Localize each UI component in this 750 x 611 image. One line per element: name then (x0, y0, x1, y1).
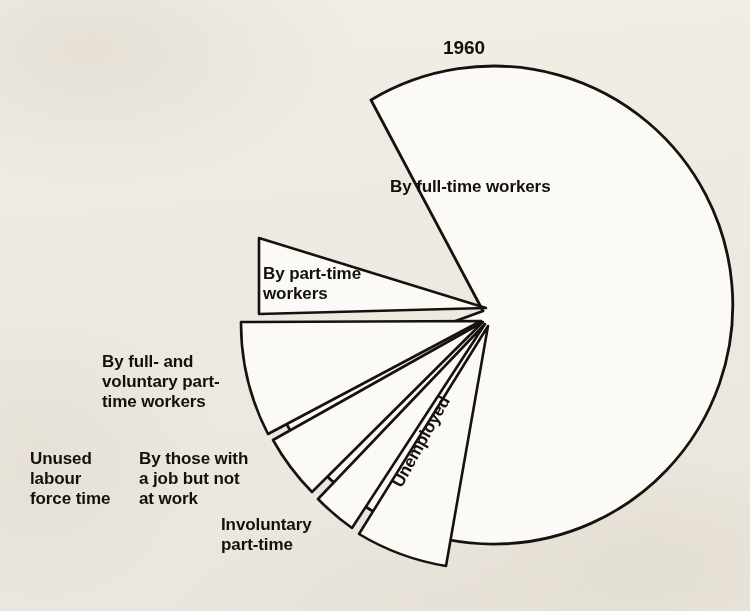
slice-label-job-but-not-at-work: By those with a job but not at work (139, 449, 248, 509)
group-label-unused-labour-force-time: Unused labour force time (30, 449, 110, 509)
slice-label-job-line2: a job but not (139, 469, 240, 488)
slice-label-job-line1: By those with (139, 449, 248, 468)
figure-page: 1960 By full-time workers By part-time w… (0, 0, 750, 611)
slice-label-full-time-workers: By full-time workers (390, 177, 551, 197)
slice-label-involuntary-line1: Involuntary (221, 515, 312, 534)
chart-title: 1960 (443, 38, 485, 58)
pie-chart-graphic (0, 0, 750, 611)
slice-label-part-time-line1: By part-time (263, 264, 361, 283)
slice-label-voluntary-line3: time workers (102, 392, 206, 411)
slice-label-job-line3: at work (139, 489, 198, 508)
slice-label-full-and-voluntary-part-time-workers: By full- and voluntary part- time worker… (102, 352, 220, 412)
slice-label-involuntary-part-time: Involuntary part-time (221, 515, 312, 555)
slice-label-voluntary-line1: By full- and (102, 352, 193, 371)
slice-label-voluntary-line2: voluntary part- (102, 372, 220, 391)
slice-label-part-time-line2: workers (263, 284, 328, 303)
group-label-unused-line1: Unused (30, 449, 92, 468)
slice-label-involuntary-line2: part-time (221, 535, 293, 554)
group-label-unused-line3: force time (30, 489, 110, 508)
slice-label-part-time-workers: By part-time workers (263, 264, 361, 304)
group-label-unused-line2: labour (30, 469, 81, 488)
